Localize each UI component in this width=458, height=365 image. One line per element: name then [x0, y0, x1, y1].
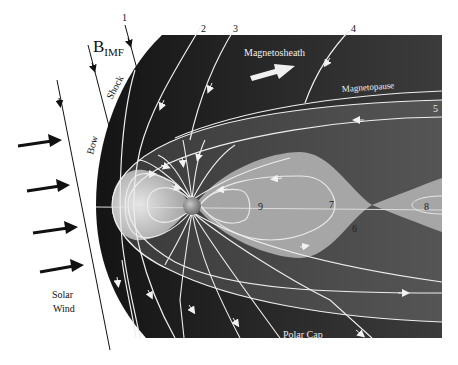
solar-wind-label-2: Wind	[53, 303, 75, 314]
magnetosheath-label: Magnetosheath	[244, 47, 305, 58]
number-9: 9	[258, 201, 263, 212]
number-1: 1	[122, 12, 127, 23]
number-4: 4	[351, 23, 356, 34]
earth	[183, 197, 201, 215]
polar-cap-label: Polar Cap	[283, 329, 323, 340]
solar-wind-arrow-2	[27, 186, 60, 191]
number-8: 8	[424, 201, 429, 212]
number-5: 5	[433, 103, 438, 114]
b-imf-label: BIMF	[93, 37, 124, 58]
solar-wind-arrow-3	[33, 228, 68, 233]
number-3: 3	[233, 23, 238, 34]
solar-wind-arrow-4	[40, 266, 74, 272]
number-2: 2	[201, 23, 206, 34]
solar-wind-arrows	[18, 141, 74, 272]
bow-label: Bow	[84, 134, 100, 156]
solar-wind-arrow-1	[18, 141, 52, 146]
number-7: 7	[329, 199, 334, 210]
magnetosphere-diagram: BIMF Shock Bow Magnetosheath Magnetopaus…	[0, 0, 458, 365]
solar-wind-label-1: Solar	[52, 289, 74, 300]
number-6: 6	[352, 223, 357, 234]
